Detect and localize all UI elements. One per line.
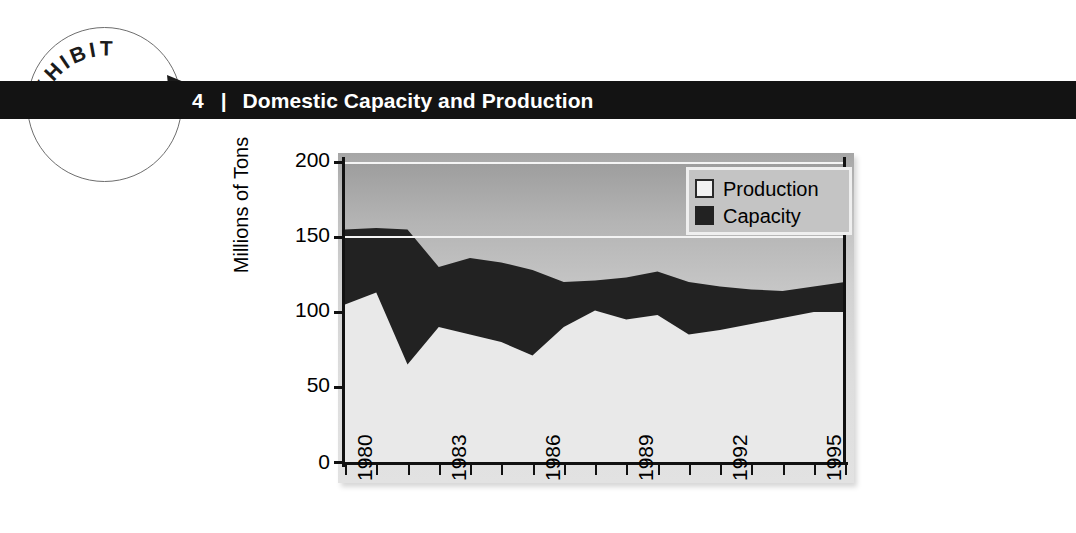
y-tick-50: 50 [274,374,330,395]
legend-swatch-capacity-icon [695,206,714,225]
y-tick-150: 150 [274,224,330,245]
chart: Millions of Tons 200 150 100 50 0 198019… [238,143,870,533]
chart-legend: Production Capacity [686,167,852,235]
legend-swatch-production-icon [695,179,714,198]
y-tick-mark-50 [334,386,345,389]
y-tick-200: 200 [274,149,330,170]
y-tick-100: 100 [274,299,330,320]
x-tick-mark-1990 [658,465,660,475]
x-tick-mark-1996 [845,465,847,475]
exhibit-title-bar: 4 | Domestic Capacity and Production [0,81,1076,119]
x-tick-mark-1988 [595,465,597,475]
x-tick-label-1995: 1995 [823,434,844,481]
y-tick-0: 0 [274,451,330,472]
y-tick-mark-150 [334,236,345,239]
x-tick-label-1989: 1989 [635,434,656,481]
x-tick-label-1983: 1983 [448,434,469,481]
legend-item-production: Production [695,175,819,202]
legend-label-production: Production [723,179,819,199]
x-tick-mark-1984 [470,465,472,475]
x-tick-mark-1982 [408,465,410,475]
legend-item-capacity: Capacity [695,202,819,229]
exhibit-number: 4 [192,90,204,111]
legend-label-capacity: Capacity [723,206,801,226]
x-tick-mark-1995 [814,465,816,475]
x-tick-mark-1980 [345,465,347,475]
x-tick-label-1992: 1992 [729,434,750,481]
x-tick-mark-1985 [501,465,503,475]
x-tick-mark-1981 [376,465,378,475]
x-tick-mark-1986 [533,465,535,475]
x-tick-label-1986: 1986 [542,434,563,481]
x-tick-mark-1993 [751,465,753,475]
x-tick-label-1980: 1980 [354,434,375,481]
x-tick-mark-1991 [689,465,691,475]
x-tick-mark-1994 [783,465,785,475]
x-tick-mark-1983 [439,465,441,475]
y-axis-tick-labels: 200 150 100 50 0 [262,143,330,483]
y-tick-mark-200 [334,161,345,164]
y-tick-mark-100 [334,311,345,314]
y-axis-title: Millions of Tons [230,105,253,305]
x-tick-mark-1987 [564,465,566,475]
y-tick-mark-0 [334,461,345,464]
x-tick-mark-1992 [720,465,722,475]
page-title: Domestic Capacity and Production [243,90,594,111]
x-tick-mark-1989 [626,465,628,475]
